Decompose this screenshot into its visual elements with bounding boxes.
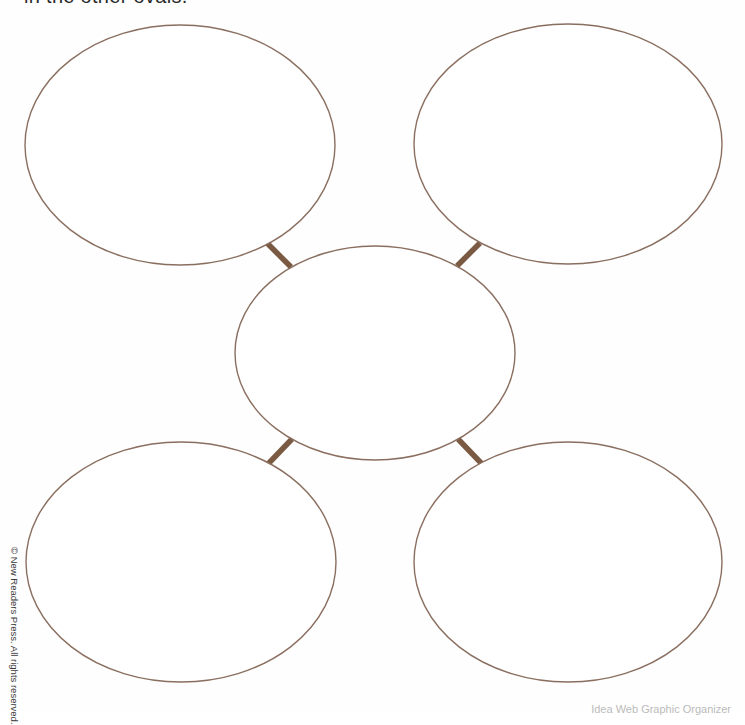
oval-bottom-left[interactable] (26, 442, 336, 682)
connector-bottom-right (458, 439, 482, 464)
connector-top-right (457, 243, 480, 266)
connector-bottom-left (268, 439, 292, 464)
copyright-notice: © New Readers Press. All rights reserved… (9, 547, 19, 725)
connector-top-left (267, 243, 291, 267)
footer-text: Idea Web Graphic Organizer (591, 703, 731, 715)
oval-bottom-right[interactable] (414, 442, 722, 682)
oval-top-right[interactable] (414, 24, 722, 264)
oval-top-left[interactable] (25, 25, 335, 265)
oval-center[interactable] (235, 246, 515, 460)
